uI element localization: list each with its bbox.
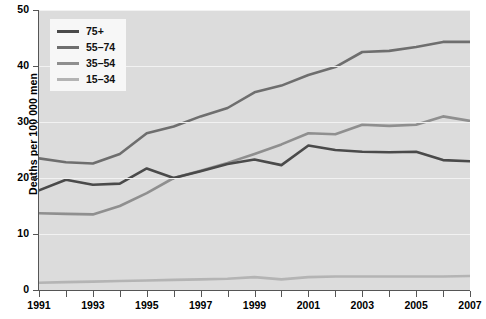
x-tick-label: 2003 — [342, 299, 382, 311]
gridline — [39, 234, 470, 235]
legend-item-label: 75+ — [86, 26, 104, 37]
x-tick — [174, 291, 175, 297]
x-tick-label: 1997 — [181, 299, 221, 311]
legend-item[interactable]: 15–34 — [57, 73, 115, 85]
series-line-15-34 — [39, 276, 470, 283]
line-chart: Deaths per 100 000 men 01020304050 19911… — [0, 0, 486, 319]
x-tick — [39, 291, 40, 297]
x-tick — [362, 291, 363, 297]
legend-swatch-icon — [57, 30, 79, 33]
x-tick — [416, 291, 417, 297]
y-tick-label: 0 — [0, 283, 29, 295]
legend-item[interactable]: 35–54 — [57, 57, 115, 69]
x-tick-label: 1993 — [73, 299, 113, 311]
x-tick — [255, 291, 256, 297]
legend-item-label: 35–54 — [86, 58, 115, 69]
x-tick — [335, 291, 336, 297]
x-tick-label: 2001 — [288, 299, 328, 311]
y-tick — [33, 66, 39, 67]
y-tick-label: 50 — [0, 3, 29, 15]
y-axis-line — [38, 10, 39, 291]
x-tick — [66, 291, 67, 297]
x-tick — [470, 291, 471, 297]
legend-swatch-icon — [57, 62, 79, 65]
y-tick — [33, 178, 39, 179]
x-tick — [201, 291, 202, 297]
x-tick — [389, 291, 390, 297]
legend-item[interactable]: 75+ — [57, 25, 115, 37]
series-line-35-54 — [39, 116, 470, 214]
legend-item-label: 15–34 — [86, 74, 115, 85]
x-tick — [443, 291, 444, 297]
legend-swatch-icon — [57, 78, 79, 81]
gridline — [39, 122, 470, 123]
legend-item-label: 55–74 — [86, 42, 115, 53]
y-tick — [33, 122, 39, 123]
legend-item[interactable]: 55–74 — [57, 41, 115, 53]
gridline — [39, 10, 470, 11]
x-tick — [120, 291, 121, 297]
y-tick — [33, 10, 39, 11]
x-tick-label: 1991 — [19, 299, 59, 311]
y-tick-label: 20 — [0, 171, 29, 183]
x-tick-label: 2005 — [396, 299, 436, 311]
x-tick-label: 1995 — [127, 299, 167, 311]
x-tick — [308, 291, 309, 297]
y-tick — [33, 234, 39, 235]
x-tick — [147, 291, 148, 297]
x-tick-label: 2007 — [450, 299, 486, 311]
legend: 75+55–7435–5415–34 — [50, 19, 126, 91]
y-tick-label: 40 — [0, 59, 29, 71]
y-tick-label: 30 — [0, 115, 29, 127]
x-tick — [93, 291, 94, 297]
legend-swatch-icon — [57, 46, 79, 49]
x-tick-label: 1999 — [235, 299, 275, 311]
series-line-75+ — [39, 146, 470, 191]
x-tick — [281, 291, 282, 297]
x-tick — [228, 291, 229, 297]
gridline — [39, 178, 470, 179]
y-tick-label: 10 — [0, 227, 29, 239]
